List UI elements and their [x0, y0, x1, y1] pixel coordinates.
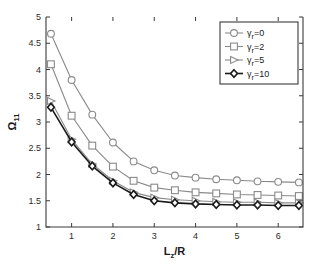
y-tick-label: 4.5: [28, 38, 41, 48]
y-tick-label: 3.5: [28, 91, 41, 101]
data-point-marker: [233, 177, 240, 184]
data-point-marker: [130, 177, 137, 184]
data-point-marker: [151, 167, 158, 174]
data-point-marker: [89, 142, 96, 149]
y-tick-label: 2.5: [28, 143, 41, 153]
data-point-marker: [192, 174, 199, 181]
data-point-marker: [110, 139, 117, 146]
axis-labels-layer: Lz/RΩ11: [6, 114, 185, 260]
data-point-marker: [48, 30, 55, 37]
data-point-marker: [110, 163, 117, 170]
x-tick-label: 1: [69, 231, 74, 241]
x-axis-label: Lz/R: [164, 245, 186, 260]
data-point-marker: [172, 172, 179, 179]
y-tick-label: 4: [36, 65, 41, 75]
y-tick-label: 5: [36, 12, 41, 22]
data-point-marker: [213, 176, 220, 183]
data-point-marker: [295, 193, 302, 200]
data-point-marker: [275, 192, 282, 199]
x-tick-label: 6: [276, 231, 281, 241]
data-point-marker: [295, 179, 302, 186]
x-tick-label: 4: [193, 231, 198, 241]
data-point-marker: [48, 61, 55, 68]
chart-legend[interactable]: γr=0γr=2γr=5γr=10: [220, 22, 298, 84]
data-point-marker: [231, 30, 238, 37]
data-point-marker: [151, 184, 158, 191]
svg-text:Ω11: Ω11: [6, 114, 21, 131]
x-tick-label: 5: [234, 231, 239, 241]
y-tick-label: 2: [36, 170, 41, 180]
data-point-marker: [89, 111, 96, 118]
data-point-marker: [231, 43, 238, 50]
chart-svg: 11.522.533.544.55123456 γr=0γr=2γr=5γr=1…: [0, 0, 328, 268]
data-point-marker: [275, 178, 282, 185]
chart-figure: 11.522.533.544.55123456 γr=0γr=2γr=5γr=1…: [0, 0, 328, 268]
y-tick-label: 1.5: [28, 196, 41, 206]
data-point-marker: [213, 190, 220, 197]
svg-text:Lz/R: Lz/R: [164, 245, 186, 260]
y-tick-label: 3: [36, 117, 41, 127]
data-point-marker: [254, 192, 261, 199]
y-tick-label: 1: [36, 222, 41, 232]
data-point-marker: [233, 191, 240, 198]
data-point-marker: [68, 112, 75, 119]
data-point-marker: [254, 178, 261, 185]
data-point-marker: [130, 158, 137, 165]
y-axis-label: Ω11: [6, 114, 21, 131]
data-point-marker: [192, 189, 199, 196]
data-point-marker: [68, 77, 75, 84]
data-point-marker: [172, 187, 179, 194]
x-tick-label: 3: [152, 231, 157, 241]
x-tick-label: 2: [110, 231, 115, 241]
